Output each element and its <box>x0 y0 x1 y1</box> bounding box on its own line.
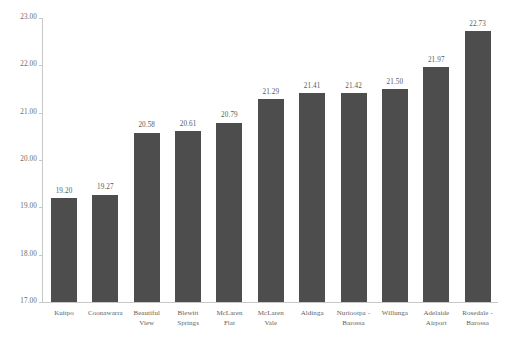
bar-value-label: 21.97 <box>428 57 445 64</box>
bar-value-label: 21.42 <box>345 83 362 90</box>
bar <box>423 67 449 302</box>
y-axis-tick-label: 23.00 <box>20 14 42 21</box>
bar-value-label: 19.27 <box>97 184 114 191</box>
bar <box>216 123 242 302</box>
bar <box>382 89 408 302</box>
clipped-title-remnant <box>0 0 505 5</box>
bar <box>134 133 160 302</box>
bar <box>175 131 201 302</box>
bar-value-label: 20.58 <box>138 122 155 129</box>
y-axis-tick-label: 19.00 <box>20 204 42 211</box>
x-axis-category-label-line: Barossa <box>330 319 378 329</box>
bar <box>92 195 118 302</box>
bar-value-label: 20.79 <box>221 112 238 119</box>
bar-value-label: 20.61 <box>180 121 197 128</box>
bar <box>341 93 367 302</box>
bar-value-label: 21.50 <box>387 79 404 86</box>
y-axis-tick-label: 21.00 <box>20 109 42 116</box>
x-axis-category-label-line: Vale <box>247 319 295 329</box>
x-axis-category-label-line: Rosedale - <box>454 309 502 319</box>
bar-value-label: 22.73 <box>469 21 486 28</box>
bar-chart: 19.2019.2720.5820.6120.7921.2921.4121.42… <box>0 0 505 341</box>
x-axis-category-label: Rosedale -Barossa <box>454 309 502 328</box>
bar <box>51 198 77 302</box>
x-axis-line <box>42 302 498 303</box>
y-axis-tick-label: 20.00 <box>20 156 42 163</box>
y-axis-tick-label: 17.00 <box>20 298 42 305</box>
plot-area: 19.2019.2720.5820.6120.7921.2921.4121.42… <box>42 18 497 302</box>
bar-value-label: 21.29 <box>262 89 279 96</box>
y-axis-tick-label: 18.00 <box>20 251 42 258</box>
y-axis-tick-label: 22.00 <box>20 62 42 69</box>
bar <box>465 31 491 302</box>
bar-value-label: 21.41 <box>304 83 321 90</box>
bar-value-label: 19.20 <box>56 188 73 195</box>
bar <box>258 99 284 302</box>
clipped-title-text <box>60 0 66 4</box>
bar <box>299 93 325 302</box>
x-axis-category-label-line: Barossa <box>454 319 502 329</box>
